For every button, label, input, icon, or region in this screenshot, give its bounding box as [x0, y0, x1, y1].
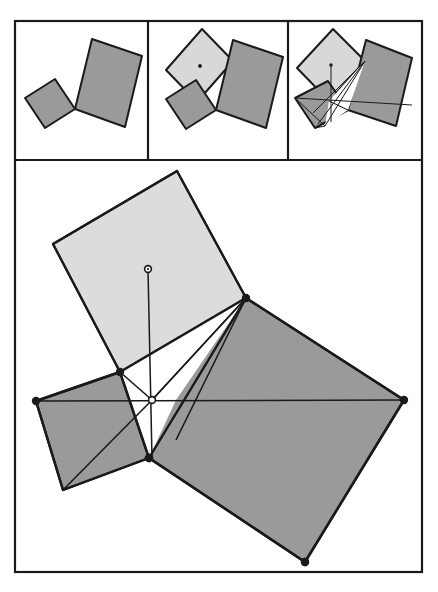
vertex-left-dot — [32, 397, 40, 405]
panel4-line-horizontal — [36, 400, 404, 401]
vertex-bottom-dot — [301, 558, 309, 566]
geometric-figure: Perigal dissection proof of the Pythagor… — [0, 0, 438, 592]
panel3-centre-dot — [329, 63, 332, 66]
vertex-apex-dot — [145, 454, 154, 463]
pythagorean-dissection-svg — [0, 0, 438, 592]
panel2-centre-dot — [198, 64, 202, 68]
panel4-hypotenuse-centre-pip — [147, 268, 149, 270]
vertex-top-right-dot — [242, 294, 250, 302]
vertex-right-dot — [400, 396, 408, 404]
vertex-light-bottom-dot — [116, 368, 124, 376]
panel4-dissection-centre-marker — [149, 397, 156, 404]
